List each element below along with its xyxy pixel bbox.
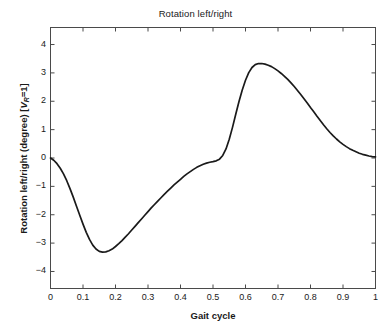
x-tick-label: 0.7 xyxy=(263,292,293,302)
y-tick-label: −3 xyxy=(20,237,46,247)
y-tick-label: −2 xyxy=(20,209,46,219)
x-tick-label: 0.2 xyxy=(101,292,131,302)
x-tick-label: 0.9 xyxy=(328,292,358,302)
x-tick-label: 0 xyxy=(36,292,66,302)
y-tick-label: 4 xyxy=(20,39,46,49)
y-tick-label: 2 xyxy=(20,95,46,105)
y-tick-label: −4 xyxy=(20,265,46,275)
y-axis-ticks xyxy=(51,45,376,272)
x-tick-label: 0.1 xyxy=(68,292,98,302)
y-tick-label: 0 xyxy=(20,152,46,162)
x-tick-label: 0.6 xyxy=(231,292,261,302)
chart-figure: Rotation left/right Rotation left/right … xyxy=(0,0,391,332)
data-series-group xyxy=(51,64,376,253)
x-axis-ticks xyxy=(51,28,376,289)
x-tick-label: 0.4 xyxy=(166,292,196,302)
x-tick-label: 0.3 xyxy=(133,292,163,302)
x-tick-label: 1 xyxy=(361,292,391,302)
y-tick-label: −1 xyxy=(20,180,46,190)
data-series-line xyxy=(51,64,376,253)
y-tick-label: 1 xyxy=(20,124,46,134)
x-tick-label: 0.8 xyxy=(296,292,326,302)
axis-frame xyxy=(51,28,376,289)
plot-area xyxy=(0,0,391,332)
x-tick-label: 0.5 xyxy=(198,292,228,302)
y-tick-label: 3 xyxy=(20,67,46,77)
